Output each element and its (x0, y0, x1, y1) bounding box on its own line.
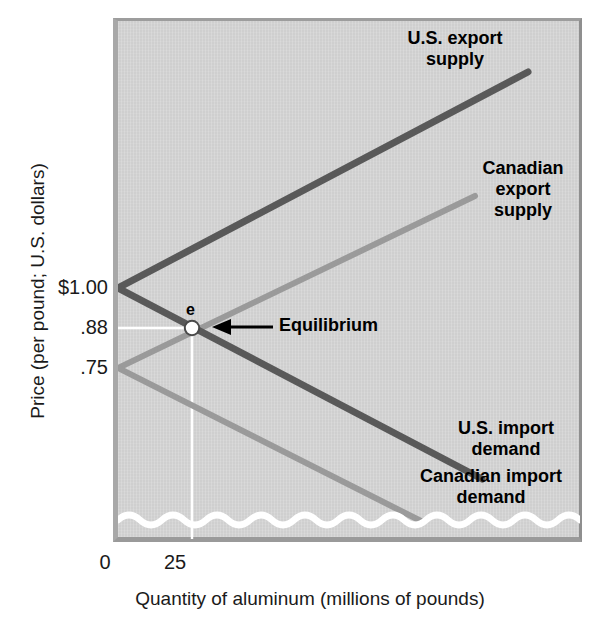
series-label-canadian-export-supply-line2: export (458, 179, 588, 200)
series-label-us-import-demand-line1: U.S. import (430, 418, 582, 439)
series-line-canadian-export-supply (118, 196, 475, 368)
y-axis-title: Price (per pound; U.S. dollars) (27, 81, 49, 501)
series-label-canadian-import-demand-line1: Canadian import (400, 466, 582, 487)
economics-chart-figure: $1.00 .88 .75 0 25 Price (per pound; U.S… (0, 0, 603, 628)
series-label-us-import-demand-line2: demand (430, 439, 582, 460)
series-label-canadian-import-demand: Canadian import demand (400, 466, 582, 508)
axis-break-wavy-line (118, 515, 580, 525)
series-label-canadian-export-supply-line3: supply (458, 200, 588, 221)
series-label-canadian-export-supply-line1: Canadian (458, 158, 588, 179)
y-axis-tick-0-88: .88 (8, 316, 108, 339)
x-axis-tick-0: 0 (85, 551, 125, 574)
series-label-us-export-supply: U.S. export supply (380, 28, 530, 70)
series-line-canadian-import-demand (118, 368, 421, 521)
equilibrium-point-marker (185, 321, 199, 335)
x-axis-tick-25: 25 (155, 551, 195, 574)
y-axis-tick-1-00: $1.00 (8, 276, 108, 299)
chart-drawing-layer (0, 0, 603, 628)
x-axis-title: Quantity of aluminum (millions of pounds… (60, 588, 560, 610)
y-axis-tick-0-75: .75 (8, 356, 108, 379)
equilibrium-annotation-label: Equilibrium (279, 315, 378, 336)
series-label-us-import-demand: U.S. import demand (430, 418, 582, 460)
series-label-us-export-supply-line2: supply (380, 49, 530, 70)
equilibrium-point-label: e (186, 301, 195, 319)
series-label-canadian-export-supply: Canadian export supply (458, 158, 588, 222)
series-label-canadian-import-demand-line2: demand (400, 487, 582, 508)
series-label-us-export-supply-line1: U.S. export (380, 28, 530, 49)
